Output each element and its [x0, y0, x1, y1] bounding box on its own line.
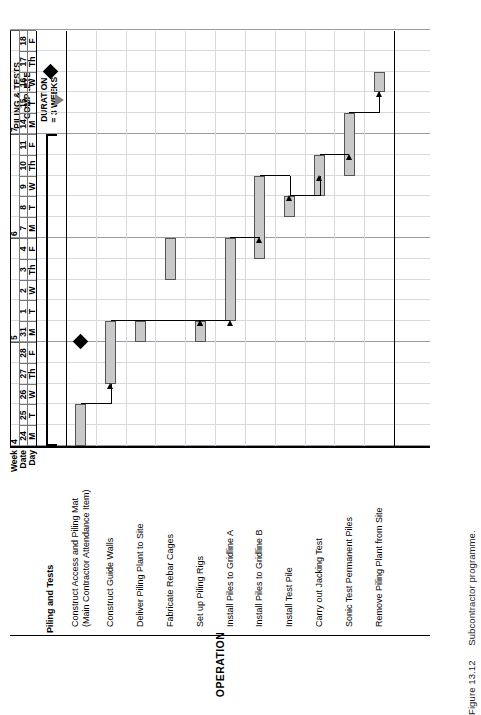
task-label: Remove Piling Plant from Site — [364, 451, 394, 629]
day-header-cell: M — [27, 217, 36, 238]
task-label: Carry out Jacking Test — [305, 451, 335, 629]
dependency-link — [290, 195, 320, 196]
task-label-text: Remove Piling Plant from Site — [374, 507, 385, 627]
day-header-cell: F — [27, 342, 36, 363]
gantt-bar[interactable] — [135, 321, 146, 342]
task-label-text: Construct Guide Walls — [105, 538, 116, 627]
day-header-cell: W — [27, 280, 36, 301]
day-header-cell: Th — [27, 51, 36, 72]
day-header-cell: W — [27, 72, 36, 93]
day-header-cell: F — [27, 238, 36, 259]
grid-day-line — [10, 362, 430, 363]
operation-label-column: OPERATIONWeekDateDayPiling and TestsCons… — [10, 447, 430, 693]
task-label-text: Carry out Jacking Test — [314, 538, 325, 627]
task-label: Sonic Test Permanent Piles — [334, 451, 364, 629]
dependency-arrow-icon — [346, 154, 352, 160]
task-label-text: Set up Piling Rigs — [195, 556, 206, 627]
dependency-link — [290, 176, 291, 197]
task-label-line1: Piling and Tests — [45, 565, 56, 633]
task-label: Deliver Piling Plant to Site — [126, 451, 156, 629]
day-header-cell: T — [27, 92, 36, 113]
day-header-cell: T — [27, 300, 36, 321]
day-header-cell: M — [27, 113, 36, 134]
gantt-bar[interactable] — [254, 176, 265, 259]
task-label-line1: Construct Guide Walls — [105, 538, 116, 627]
figure-number: Figure 13.12 — [466, 660, 477, 715]
grid-day-line — [10, 445, 430, 446]
gantt-bar[interactable] — [344, 113, 355, 175]
task-label-text: Construct Access and Piling Mat(Main Con… — [70, 489, 92, 627]
grid-day-line — [10, 133, 430, 134]
task-label-line1: Construct Access and Piling Mat — [70, 489, 81, 627]
task-label-line2: (Main Contractor Attendance Item) — [81, 489, 92, 627]
grid-row-line — [155, 31, 156, 446]
task-label-line1: Install Piles to Gridline A — [225, 530, 236, 627]
day-header-cell: Th — [27, 363, 36, 384]
dependency-arrow-icon — [376, 91, 382, 97]
dependency-arrow-icon — [316, 175, 322, 181]
dependency-link — [320, 154, 350, 155]
day-header-cell: Th — [27, 259, 36, 280]
grid-header-top-line — [10, 31, 11, 446]
figure-caption: Figure 13.12 Subcontractor programme. — [466, 530, 477, 715]
task-label-line1: Fabricate Rebar Cages — [165, 534, 176, 627]
task-label: Construct Guide Walls — [96, 451, 126, 629]
task-label: Install Piles to Gridline A — [215, 451, 245, 629]
grid-day-line — [10, 279, 430, 280]
grid-day-line — [10, 424, 430, 425]
dependency-link — [81, 403, 111, 404]
grid-day-line — [10, 91, 430, 92]
grid-row-line — [126, 31, 127, 446]
day-header-cell: W — [27, 384, 36, 405]
grid-major-line — [394, 31, 395, 446]
task-label-text: Piling and Tests — [45, 565, 56, 633]
gantt-bar[interactable] — [225, 238, 236, 321]
grid-day-line — [10, 383, 430, 384]
grid-header-line — [19, 31, 20, 446]
task-label-text: Install Piles to Gridline B — [254, 529, 265, 627]
task-label-text: Install Piles to Gridline A — [225, 530, 236, 627]
dependency-link — [230, 237, 260, 238]
task-label: Construct Access and Piling Mat(Main Con… — [66, 451, 96, 629]
grid-day-line — [10, 175, 430, 176]
operation-header-label: OPERATION — [214, 632, 226, 697]
week-header-row: 4567 — [10, 31, 19, 446]
grid-major-line — [66, 31, 67, 446]
grid-day-line — [10, 29, 430, 30]
day-header-cell: Th — [27, 155, 36, 176]
grid-row-line — [275, 31, 276, 446]
task-label-line1: Remove Piling Plant from Site — [374, 507, 385, 627]
task-label-line1: Install Piles to Gridline B — [254, 529, 265, 627]
task-label: Set up Piling Rigs — [185, 451, 215, 629]
day-header-cell: M — [27, 425, 36, 446]
task-label: Fabricate Rebar Cages — [155, 451, 185, 629]
task-label-text: Fabricate Rebar Cages — [165, 534, 176, 627]
grid-day-line — [10, 403, 430, 404]
grid-row-line — [185, 31, 186, 446]
task-label-line1: Sonic Test Permanent Piles — [344, 517, 355, 627]
date-header-row: 242526272831123478910111415161718 — [19, 31, 28, 446]
figure-page: OPERATIONWeekDateDayPiling and TestsCons… — [0, 0, 481, 715]
figure-caption-text: Subcontractor programme. — [466, 530, 477, 645]
day-header-cell: M — [27, 321, 36, 342]
task-label-line1: Set up Piling Rigs — [195, 556, 206, 627]
gantt-bar[interactable] — [165, 238, 176, 280]
milestone-marker[interactable] — [73, 334, 89, 350]
operation-column-header: OPERATION — [10, 635, 430, 693]
grid-day-line — [10, 71, 430, 72]
timeline-row-label-day: Day — [27, 450, 36, 466]
grid-row-line — [305, 31, 306, 446]
task-label-line1: Install Test Pile — [284, 567, 295, 627]
grid-day-line — [10, 154, 430, 155]
timeline-grid: 4567242526272831123478910111415161718MTW… — [10, 31, 430, 447]
milestone-marker[interactable] — [43, 64, 59, 80]
rotated-page-wrapper: OPERATIONWeekDateDayPiling and TestsCons… — [0, 0, 481, 715]
grid-row-line — [245, 31, 246, 446]
gantt-bar[interactable] — [105, 321, 116, 383]
summary-bar[interactable] — [46, 134, 57, 446]
gantt-bar[interactable] — [75, 404, 86, 446]
grid-day-line — [10, 299, 430, 300]
task-label: Install Test Pile — [275, 451, 305, 629]
task-label-text: Deliver Piling Plant to Site — [135, 523, 146, 627]
gantt-bar[interactable] — [374, 72, 385, 93]
